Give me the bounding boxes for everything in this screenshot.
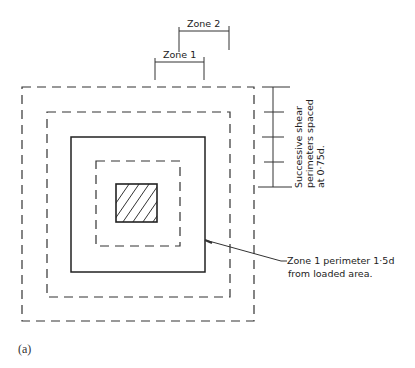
loaded-area-column	[96, 174, 186, 232]
spacing-note-line3: at 0·75d.	[315, 145, 326, 188]
zone1-label: Zone 1	[163, 49, 196, 60]
spacing-note: Successive shear perimeters spaced at 0·…	[293, 99, 326, 188]
callout-leader	[205, 240, 287, 261]
punching-shear-diagram: Zone 2 Zone 1 Successive shear perimeter…	[0, 0, 415, 368]
zone1-solid-perimeter	[71, 137, 205, 272]
figure-caption: (a)	[18, 342, 31, 356]
zone1-dimension	[155, 57, 204, 80]
inner-dashed-perimeter	[96, 161, 180, 246]
outer-dashed-perimeter	[22, 87, 254, 321]
spacing-note-line2: perimeters spaced	[304, 99, 315, 188]
zone2-label: Zone 2	[187, 18, 220, 29]
callout-line1: Zone 1 perimeter 1·5d	[287, 255, 394, 266]
callout-line2: from loaded area.	[288, 268, 373, 279]
spacing-note-line1: Successive shear	[293, 106, 304, 188]
second-dashed-perimeter	[47, 112, 230, 297]
spacing-dimension	[258, 87, 292, 187]
